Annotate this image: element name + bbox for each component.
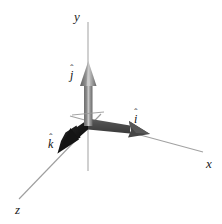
y-axis-label: y xyxy=(74,10,80,23)
axes-diagram-canvas xyxy=(0,0,222,224)
x-axis-label: x xyxy=(206,157,212,170)
i-hat-vector xyxy=(88,119,150,138)
j-hat-vector xyxy=(80,61,97,126)
j-hat-accent-icon: ˆ xyxy=(70,63,73,74)
z-axis-label: z xyxy=(15,203,20,216)
k-hat-label: k ˆ xyxy=(48,138,53,150)
j-hat-label: j ˆ xyxy=(70,69,73,81)
k-hat-vector xyxy=(58,120,89,154)
coordinate-axes-figure: y x z j ˆ i ˆ k ˆ xyxy=(0,0,222,224)
i-hat-label: i ˆ xyxy=(134,113,137,125)
k-hat-accent-icon: ˆ xyxy=(49,132,52,143)
i-hat-accent-icon: ˆ xyxy=(134,107,137,118)
